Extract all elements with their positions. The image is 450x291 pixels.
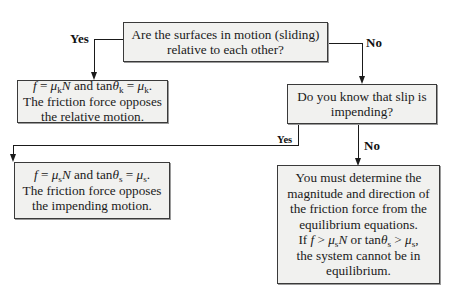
edge-label-yes: Yes (70, 31, 89, 47)
connector-yes-vertical (94, 39, 95, 73)
node-text: Do you know that slip is (297, 89, 426, 105)
node-text: the relative motion. (41, 109, 144, 125)
node-text: You must determine the (296, 170, 422, 186)
edge-label-no: No (366, 35, 382, 51)
node-kinetic-friction: f = μkN and tanθk = μk. The friction for… (17, 80, 168, 123)
node-surfaces-in-motion: Are the surfaces in motion (sliding) rel… (123, 22, 328, 62)
connector-yes2-vertical-up (298, 124, 299, 146)
node-text: magnitude and direction of (287, 186, 429, 202)
connector-no2-vertical (358, 124, 359, 159)
node-text: The friction force opposes (23, 183, 162, 199)
node-text: equilibrium equations. (299, 217, 418, 233)
node-text: equilibrium. (326, 263, 391, 279)
node-text: the system cannot be in (297, 248, 421, 264)
node-equilibrium-equations: You must determine the magnitude and dir… (277, 165, 440, 284)
node-text: relative to each other? (167, 42, 284, 58)
arrow-down-icon (359, 76, 365, 84)
node-text: the impending motion. (32, 198, 152, 214)
static-equation: f = μsN and tanθs = μs. (34, 167, 150, 183)
connector-yes2-horizontal (13, 145, 299, 146)
arrow-down-icon (10, 154, 16, 162)
node-text: Are the surfaces in motion (sliding) (132, 27, 320, 43)
connector-no-horizontal (328, 43, 363, 44)
node-static-friction: f = μsN and tanθs = μs. The friction for… (14, 162, 170, 219)
node-slip-impending: Do you know that slip is impending? (287, 84, 437, 124)
node-text: impending? (331, 104, 393, 120)
connector-no-vertical (362, 43, 363, 77)
edge-label-yes-2: Yes (277, 134, 292, 145)
node-text: The friction force opposes (23, 94, 162, 110)
connector-yes-horizontal (94, 39, 123, 40)
equilibrium-condition: If f > μsN or tanθs > μs, (298, 232, 418, 248)
edge-label-no-2: No (364, 138, 380, 154)
node-text: the friction force from the (290, 201, 427, 217)
kinetic-equation: f = μkN and tanθk = μk. (33, 78, 152, 94)
